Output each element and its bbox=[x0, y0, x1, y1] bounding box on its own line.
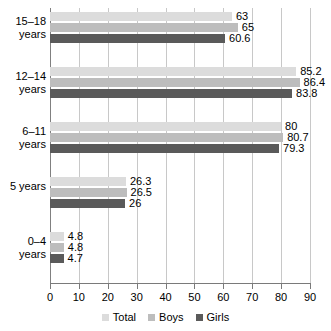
chart-legend: TotalBoysGirls bbox=[0, 311, 331, 324]
x-tick-20 bbox=[108, 284, 109, 289]
legend-label-total: Total bbox=[113, 311, 136, 324]
x-tick-40 bbox=[166, 284, 167, 289]
bar-girls-3 bbox=[50, 199, 125, 208]
bar-total-1 bbox=[50, 67, 296, 76]
x-tick-70 bbox=[252, 284, 253, 289]
bar-girls-4 bbox=[50, 254, 64, 263]
category-label-4: 0–4 years bbox=[0, 235, 46, 261]
category-label-1: 12–14 years bbox=[0, 70, 46, 96]
bar-total-0 bbox=[50, 12, 232, 21]
gridline-80 bbox=[281, 8, 282, 283]
bar-girls-0 bbox=[50, 34, 225, 43]
bar-girls-1 bbox=[50, 89, 292, 98]
bar-chart: 636560.685.286.483.88080.779.326.326.526… bbox=[0, 0, 331, 331]
x-tick-label-70: 70 bbox=[237, 291, 267, 304]
bar-value-label: 60.6 bbox=[229, 31, 250, 45]
x-tick-80 bbox=[281, 284, 282, 289]
legend-label-boys: Boys bbox=[159, 311, 183, 324]
bar-girls-2 bbox=[50, 144, 279, 153]
x-tick-60 bbox=[223, 284, 224, 289]
bar-boys-1 bbox=[50, 78, 300, 87]
x-axis-line bbox=[50, 283, 311, 284]
x-tick-label-60: 60 bbox=[208, 291, 238, 304]
plot-area: 636560.685.286.483.88080.779.326.326.526… bbox=[50, 8, 310, 283]
bar-total-3 bbox=[50, 177, 126, 186]
legend-item-girls[interactable]: Girls bbox=[196, 311, 230, 324]
bar-value-label: 83.8 bbox=[296, 86, 317, 100]
x-tick-label-40: 40 bbox=[151, 291, 181, 304]
x-tick-label-30: 30 bbox=[122, 291, 152, 304]
x-tick-30 bbox=[137, 284, 138, 289]
bar-boys-0 bbox=[50, 23, 238, 32]
legend-swatch-boys bbox=[148, 314, 155, 321]
x-tick-label-90: 90 bbox=[295, 291, 325, 304]
x-tick-0 bbox=[50, 284, 51, 289]
x-tick-label-0: 0 bbox=[35, 291, 65, 304]
x-tick-10 bbox=[79, 284, 80, 289]
category-label-3: 5 years bbox=[0, 180, 46, 193]
x-tick-label-50: 50 bbox=[179, 291, 209, 304]
x-tick-label-10: 10 bbox=[64, 291, 94, 304]
legend-item-total[interactable]: Total bbox=[102, 311, 136, 324]
category-label-0: 15–18 years bbox=[0, 15, 46, 41]
legend-swatch-total bbox=[102, 314, 109, 321]
bar-value-label: 26 bbox=[129, 196, 141, 210]
bar-boys-2 bbox=[50, 133, 283, 142]
legend-swatch-girls bbox=[196, 314, 203, 321]
x-tick-label-80: 80 bbox=[266, 291, 296, 304]
gridline-90 bbox=[310, 8, 311, 283]
x-tick-label-20: 20 bbox=[93, 291, 123, 304]
bar-total-2 bbox=[50, 122, 281, 131]
bar-boys-4 bbox=[50, 243, 64, 252]
category-label-2: 6–11 years bbox=[0, 125, 46, 151]
bar-total-4 bbox=[50, 232, 64, 241]
legend-label-girls: Girls bbox=[207, 311, 230, 324]
legend-item-boys[interactable]: Boys bbox=[148, 311, 183, 324]
bar-value-label: 79.3 bbox=[283, 141, 304, 155]
bar-value-label: 4.7 bbox=[68, 251, 83, 265]
bar-boys-3 bbox=[50, 188, 127, 197]
x-tick-90 bbox=[310, 284, 311, 289]
x-tick-50 bbox=[194, 284, 195, 289]
